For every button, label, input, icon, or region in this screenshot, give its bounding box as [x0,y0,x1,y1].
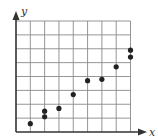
data-point [128,54,133,59]
data-point [42,114,47,119]
data-point [71,92,76,97]
data-point [85,78,90,83]
data-point [56,106,61,111]
data-point [28,121,33,126]
data-point [42,109,47,114]
y-axis-arrow-icon [13,11,20,20]
data-point [128,48,133,53]
data-points [28,48,133,127]
x-axis-label: x [149,126,156,139]
data-point [99,77,104,82]
axes: y x [13,5,157,139]
y-axis-label: y [20,5,28,18]
x-axis-arrow-icon [138,129,147,136]
scatter-plot: y x [0,0,158,140]
grid-lines [16,21,131,132]
data-point [114,64,119,69]
